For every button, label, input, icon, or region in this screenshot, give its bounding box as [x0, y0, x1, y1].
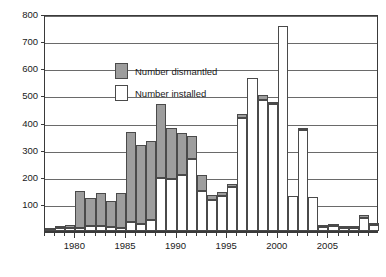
- x-axis-tick-minor: [44, 232, 45, 236]
- bar-segment-dismantled: [106, 201, 116, 227]
- x-axis-tick-minor: [115, 232, 116, 236]
- bar-group: [85, 14, 95, 231]
- x-axis-tick-label: 1980: [64, 240, 85, 251]
- x-axis-tick-major: [226, 232, 227, 238]
- bar-segment-dismantled: [116, 193, 126, 228]
- x-axis-tick-label: 1990: [165, 240, 186, 251]
- y-axis-tick-label: 200: [22, 172, 38, 183]
- bar-segment-dismantled: [237, 114, 247, 118]
- bar-group: [268, 14, 278, 231]
- bar-group: [217, 14, 227, 231]
- bar-segment-installed: [85, 226, 95, 231]
- x-axis-tick-major: [74, 232, 75, 238]
- x-axis-tick-minor: [338, 232, 339, 236]
- bar-group: [247, 14, 257, 231]
- bar-group: [197, 14, 207, 231]
- bar-group: [349, 14, 359, 231]
- bar-group: [166, 14, 176, 231]
- y-axis-tick-label: 400: [22, 118, 38, 129]
- bar-series-container: [45, 16, 377, 231]
- bar-segment-installed: [349, 228, 359, 231]
- bar-segment-dismantled: [75, 191, 85, 228]
- bar-segment-installed: [146, 220, 156, 231]
- bar-group: [258, 14, 268, 231]
- x-axis-tick-minor: [105, 232, 106, 236]
- x-axis-tick-minor: [165, 232, 166, 236]
- bar-segment-dismantled: [177, 133, 187, 176]
- bar-segment-installed: [55, 228, 65, 231]
- bar-group: [339, 14, 349, 231]
- bar-segment-dismantled: [187, 136, 197, 159]
- bar-group: [177, 14, 187, 231]
- bar-segment-installed: [369, 225, 379, 231]
- bar-segment-installed: [207, 200, 217, 231]
- x-axis-tick-minor: [348, 232, 349, 236]
- bar-group: [96, 14, 106, 231]
- bar-group: [146, 14, 156, 231]
- bar-segment-installed: [318, 227, 328, 231]
- bar-segment-dismantled: [126, 132, 136, 222]
- bar-segment-installed: [96, 226, 106, 231]
- bar-segment-dismantled: [298, 128, 308, 130]
- bar-group: [55, 14, 65, 231]
- y-axis-tick-label: 100: [22, 199, 38, 210]
- legend-label-dismantled: Number dismantled: [135, 66, 217, 77]
- x-axis-tick-minor: [145, 232, 146, 236]
- bar-segment-installed: [247, 78, 257, 231]
- bar-segment-installed: [65, 228, 75, 231]
- bar-segment-dismantled: [359, 215, 369, 218]
- plot-area: Number dismantled Number installed: [44, 15, 378, 232]
- bar-group: [298, 14, 308, 231]
- bar-segment-installed: [258, 100, 268, 231]
- bar-segment-dismantled: [268, 102, 278, 104]
- bar-group: [136, 14, 146, 231]
- x-axis-tick-major: [176, 232, 177, 238]
- x-axis-tick-minor: [267, 232, 268, 236]
- bar-segment-installed: [106, 227, 116, 231]
- bar-segment-dismantled: [146, 141, 156, 220]
- x-axis-tick-minor: [206, 232, 207, 236]
- bar-segment-installed: [156, 178, 166, 231]
- bar-group: [126, 14, 136, 231]
- bar-segment-dismantled: [166, 128, 176, 180]
- y-axis-labels: 800700600500400300200100: [0, 0, 41, 277]
- x-axis-tick-minor: [246, 232, 247, 236]
- bar-segment-installed: [197, 191, 207, 231]
- bar-segment-installed: [75, 228, 85, 231]
- x-axis-tick-label: 2000: [266, 240, 287, 251]
- bar-segment-installed: [359, 218, 369, 231]
- bar-segment-dismantled: [96, 193, 106, 226]
- bar-segment-dismantled: [207, 195, 217, 200]
- bar-segment-dismantled: [197, 175, 207, 191]
- bar-segment-installed: [298, 130, 308, 231]
- x-axis-tick-minor: [135, 232, 136, 236]
- x-axis-tick-minor: [54, 232, 55, 236]
- bar-group: [116, 14, 126, 231]
- bar-segment-dismantled: [85, 198, 95, 226]
- bar-segment-installed: [339, 228, 349, 231]
- bar-group: [278, 14, 288, 231]
- bar-group: [45, 14, 55, 231]
- legend-swatch-dismantled-icon: [115, 63, 128, 79]
- x-axis-tick-minor: [307, 232, 308, 236]
- x-axis-tick-minor: [257, 232, 258, 236]
- bar-segment-installed: [268, 104, 278, 231]
- bar-group: [187, 14, 197, 231]
- bar-segment-installed: [126, 222, 136, 231]
- x-axis-tick-major: [125, 232, 126, 238]
- bar-group: [75, 14, 85, 231]
- bar-segment-dismantled: [217, 192, 227, 196]
- bar-segment-dismantled: [328, 224, 338, 226]
- bar-segment-installed: [308, 197, 318, 231]
- bar-segment-dismantled: [45, 228, 55, 230]
- bar-segment-dismantled: [65, 225, 75, 228]
- x-axis-tick-minor: [368, 232, 369, 236]
- bar-group: [328, 14, 338, 231]
- bar-segment-dismantled: [156, 104, 166, 178]
- bar-segment-installed: [237, 118, 247, 231]
- x-axis-tick-minor: [297, 232, 298, 236]
- bar-segment-installed: [166, 179, 176, 231]
- bar-group: [106, 14, 116, 231]
- legend-item-installed: Number installed: [115, 82, 227, 104]
- x-axis-tick-label: 1995: [216, 240, 237, 251]
